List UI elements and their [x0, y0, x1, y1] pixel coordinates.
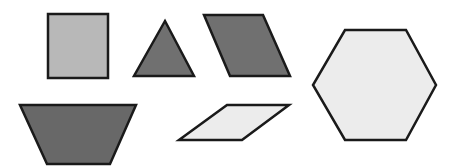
square-shape — [48, 14, 108, 78]
shape-canvas — [0, 0, 450, 167]
shapes-illustration — [0, 0, 450, 167]
